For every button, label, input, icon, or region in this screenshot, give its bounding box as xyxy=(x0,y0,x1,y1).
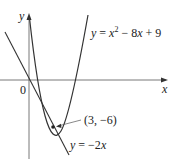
graph: y x 0 y = x2 − 8x + 9 (3, −6) y = −2x xyxy=(0,0,174,159)
x-axis-label: x xyxy=(161,82,168,96)
point-label: (3, −6) xyxy=(84,113,117,127)
tangent-label: y = −2x xyxy=(69,138,107,152)
y-axis-label: y xyxy=(18,9,25,23)
origin-label: 0 xyxy=(20,83,26,97)
parabola-label: y = x2 − 8x + 9 xyxy=(90,25,161,40)
parabola-curve xyxy=(30,15,89,135)
tangent-line xyxy=(5,32,69,155)
y-axis-arrow xyxy=(27,13,32,20)
point-leader-arrow xyxy=(56,124,62,128)
tangent-point xyxy=(51,125,55,129)
point-leader xyxy=(58,120,81,126)
